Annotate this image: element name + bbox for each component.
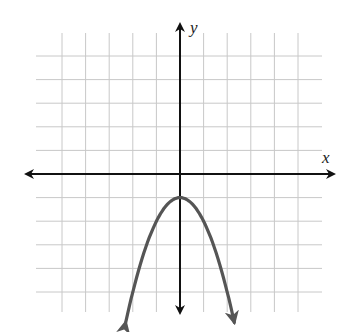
y-axis-label: y (188, 18, 198, 37)
x-axis-label: x (321, 148, 330, 167)
coordinate-plane: x y (0, 0, 356, 332)
